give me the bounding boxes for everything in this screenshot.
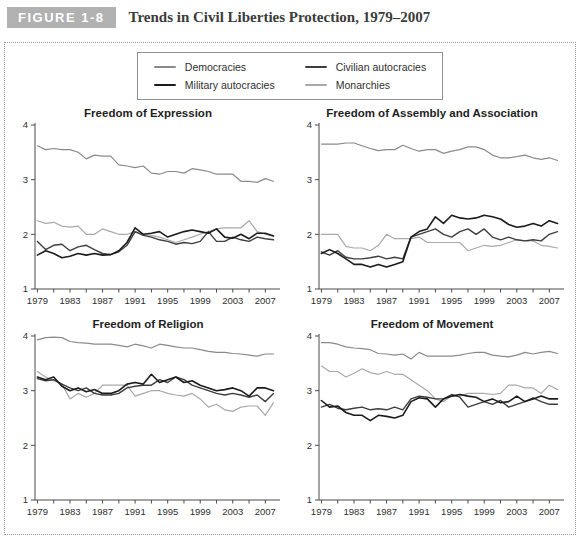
axes <box>35 334 280 500</box>
figure-number-badge: FIGURE 1-8 <box>7 7 116 28</box>
charts-grid: Freedom of Expression 123419791983198719… <box>5 104 575 526</box>
x-tick-label: 1999 <box>474 295 495 306</box>
series-line-monarchies <box>321 234 557 250</box>
y-tick-label: 2 <box>307 440 312 451</box>
x-tick-label: 2003 <box>222 506 243 517</box>
line-chart-expression: 123419791983198719911995199920032007 <box>9 119 287 315</box>
x-tick-label: 2007 <box>255 506 276 517</box>
x-tick-label: 1987 <box>92 295 113 306</box>
x-tick-label: 1979 <box>311 506 332 517</box>
legend-label-democracies: Democracies <box>185 61 246 73</box>
x-tick-label: 1979 <box>27 295 48 306</box>
x-tick-label: 2003 <box>506 295 527 306</box>
x-tick-label: 1991 <box>125 506 146 517</box>
y-tick-label: 1 <box>307 283 312 294</box>
x-tick-label: 1987 <box>376 506 397 517</box>
legend-line-monarchies-icon <box>305 84 327 85</box>
line-chart-movement: 123419791983198719911995199920032007 <box>293 330 571 526</box>
x-tick-label: 1983 <box>343 295 364 306</box>
chart-legend: DemocraciesMilitary autocraciesCivilian … <box>137 52 443 100</box>
x-tick-label: 1979 <box>311 295 332 306</box>
y-tick-label: 2 <box>23 229 28 240</box>
figure-title: Trends in Civil Liberties Protection, 19… <box>129 9 431 26</box>
chart-title-movement: Freedom of Movement <box>371 318 494 330</box>
y-tick-label: 1 <box>23 283 28 294</box>
x-tick-label: 1983 <box>59 506 80 517</box>
series-line-military-autocracies <box>37 228 273 258</box>
x-tick-label: 1983 <box>59 295 80 306</box>
series-line-civilian-autocracies <box>321 229 557 259</box>
x-tick-label: 1995 <box>441 506 462 517</box>
chart-title-expression: Freedom of Expression <box>84 107 212 119</box>
series-line-democracies <box>37 146 273 183</box>
y-tick-label: 1 <box>23 494 28 505</box>
x-tick-label: 2007 <box>539 295 560 306</box>
x-tick-label: 1991 <box>409 295 430 306</box>
y-tick-label: 3 <box>307 174 312 185</box>
series-line-democracies <box>321 143 557 161</box>
chart-freedom-of-movement: Freedom of Movement 12341979198319871991… <box>290 315 574 526</box>
legend-item-monarchies: Monarchies <box>305 79 426 91</box>
chart-title-religion: Freedom of Religion <box>92 318 203 330</box>
x-tick-label: 1991 <box>409 506 430 517</box>
x-tick-label: 1995 <box>157 506 178 517</box>
y-tick-label: 1 <box>307 494 312 505</box>
axes <box>319 334 564 500</box>
axes <box>35 123 280 289</box>
series-line-military-autocracies <box>37 374 273 396</box>
legend-label-civilian-autocracies: Civilian autocracies <box>336 61 426 73</box>
series-line-democracies <box>321 343 557 359</box>
legend-label-military-autocracies: Military autocracies <box>185 79 275 91</box>
x-tick-label: 1999 <box>474 506 495 517</box>
y-tick-label: 3 <box>307 385 312 396</box>
x-tick-label: 1983 <box>343 506 364 517</box>
figure-panel: DemocraciesMilitary autocraciesCivilian … <box>4 42 576 535</box>
x-tick-label: 1987 <box>376 295 397 306</box>
legend-item-military-autocracies: Military autocracies <box>154 79 275 91</box>
x-tick-label: 1995 <box>441 295 462 306</box>
x-tick-label: 1995 <box>157 295 178 306</box>
figure-header: FIGURE 1-8 Trends in Civil Liberties Pro… <box>0 0 580 28</box>
x-tick-label: 2003 <box>222 295 243 306</box>
y-tick-label: 4 <box>23 119 28 130</box>
chart-freedom-of-expression: Freedom of Expression 123419791983198719… <box>6 104 290 315</box>
x-tick-label: 2003 <box>506 506 527 517</box>
legend-item-democracies: Democracies <box>154 61 275 73</box>
x-tick-label: 1991 <box>125 295 146 306</box>
legend-line-military-autocracies-icon <box>154 84 176 86</box>
y-tick-label: 4 <box>307 119 312 130</box>
x-tick-label: 1979 <box>27 506 48 517</box>
series-line-democracies <box>37 337 273 356</box>
legend-label-monarchies: Monarchies <box>336 79 390 91</box>
x-tick-label: 1999 <box>190 506 211 517</box>
chart-freedom-of-assembly: Freedom of Assembly and Association 1234… <box>290 104 574 315</box>
x-tick-label: 1987 <box>92 506 113 517</box>
line-chart-religion: 123419791983198719911995199920032007 <box>9 330 287 526</box>
y-tick-label: 3 <box>23 174 28 185</box>
legend-item-civilian-autocracies: Civilian autocracies <box>305 61 426 73</box>
y-tick-label: 3 <box>23 385 28 396</box>
figure-page: FIGURE 1-8 Trends in Civil Liberties Pro… <box>0 0 580 28</box>
y-tick-label: 2 <box>307 229 312 240</box>
chart-title-assembly: Freedom of Assembly and Association <box>326 107 537 119</box>
legend-line-civilian-autocracies-icon <box>305 66 327 67</box>
legend-line-democracies-icon <box>154 66 176 67</box>
line-chart-assembly: 123419791983198719911995199920032007 <box>293 119 571 315</box>
x-tick-label: 1999 <box>190 295 211 306</box>
chart-freedom-of-religion: Freedom of Religion 12341979198319871991… <box>6 315 290 526</box>
x-tick-label: 2007 <box>255 295 276 306</box>
x-tick-label: 2007 <box>539 506 560 517</box>
y-tick-label: 2 <box>23 440 28 451</box>
series-line-monarchies <box>321 366 557 402</box>
y-tick-label: 4 <box>307 330 312 341</box>
y-tick-label: 4 <box>23 330 28 341</box>
